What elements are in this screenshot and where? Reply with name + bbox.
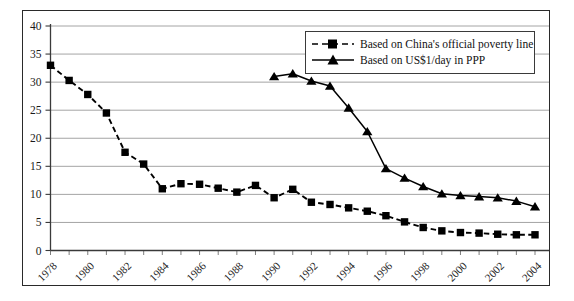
y-tick-label: 30: [30, 76, 42, 88]
data-point-square: [289, 186, 296, 193]
x-tick-label: 1990: [259, 259, 283, 283]
data-point-square: [65, 77, 72, 84]
data-point-square: [103, 109, 110, 116]
data-point-square: [457, 229, 464, 236]
data-point-square: [308, 199, 315, 206]
legend-label-ppp: Based on US$1/day in PPP: [360, 53, 485, 67]
series-1: [47, 62, 539, 239]
x-tick-label: 1996: [370, 259, 394, 283]
data-point-square: [159, 185, 166, 192]
x-tick-label: 1992: [296, 260, 320, 284]
y-axis-ticks: [46, 26, 51, 251]
x-tick-label: 1982: [109, 260, 133, 284]
data-point-triangle: [288, 69, 298, 77]
data-point-square: [475, 229, 482, 236]
data-point-square: [177, 180, 184, 187]
chart-legend: Based on China's official poverty line B…: [305, 31, 535, 74]
data-point-square: [326, 201, 333, 208]
y-tick-label: 5: [36, 216, 42, 228]
x-axis-labels: 1978198019821984198619881990199219941996…: [35, 259, 544, 283]
y-tick-label: 40: [30, 20, 42, 32]
data-point-square: [494, 231, 501, 238]
data-series-layer: [47, 62, 540, 239]
y-tick-label: 15: [30, 160, 42, 172]
data-point-square: [233, 188, 240, 195]
data-point-square: [121, 149, 128, 156]
x-tick-label: 2002: [482, 260, 506, 284]
data-point-square: [438, 227, 445, 234]
legend-label-official-line: Based on China's official poverty line: [360, 37, 533, 51]
data-point-square: [84, 91, 91, 98]
data-point-triangle: [381, 164, 391, 172]
data-point-triangle: [399, 174, 409, 182]
y-tick-label: 20: [30, 132, 42, 144]
legend-key-triangle-solid: [312, 53, 354, 67]
data-point-square: [364, 208, 371, 215]
x-tick-label: 2000: [445, 259, 469, 283]
y-tick-label: 0: [36, 245, 42, 257]
y-tick-label: 35: [30, 48, 42, 60]
x-axis-ticks: [51, 251, 536, 256]
data-point-triangle: [418, 182, 428, 190]
data-point-square: [419, 224, 426, 231]
figure: 0510152025303540 19781980198219841986198…: [0, 0, 574, 301]
x-tick-label: 1978: [35, 259, 59, 283]
data-point-square: [252, 182, 259, 189]
data-point-square: [47, 62, 54, 69]
data-point-square: [382, 212, 389, 219]
y-tick-label: 25: [30, 104, 42, 116]
data-point-square: [401, 218, 408, 225]
y-tick-label: 10: [30, 188, 42, 200]
data-point-square: [196, 181, 203, 188]
legend-key-square-dashed: [312, 37, 354, 51]
x-tick-label: 1998: [408, 259, 432, 283]
data-point-square: [513, 231, 520, 238]
x-tick-label: 1994: [333, 259, 357, 283]
x-tick-label: 1986: [184, 259, 208, 283]
legend-item-official-line: Based on China's official poverty line: [312, 36, 528, 52]
x-tick-label: 1980: [72, 259, 96, 283]
data-point-triangle: [306, 76, 316, 84]
data-point-square: [215, 185, 222, 192]
data-point-square: [270, 194, 277, 201]
series-line: [274, 74, 535, 207]
series-2: [269, 69, 540, 210]
x-tick-label: 2004: [519, 259, 543, 283]
x-tick-label: 1984: [147, 259, 171, 283]
data-point-square: [140, 160, 147, 167]
y-axis-labels: 0510152025303540: [30, 20, 42, 257]
x-tick-label: 1988: [221, 259, 245, 283]
data-point-square: [531, 231, 538, 238]
legend-item-ppp: Based on US$1/day in PPP: [312, 52, 528, 68]
data-point-square: [345, 204, 352, 211]
